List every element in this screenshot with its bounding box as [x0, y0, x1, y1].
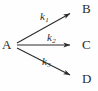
rate-constant-k1: k1 [40, 11, 49, 24]
rate-k3-subscript: 3 [47, 61, 51, 69]
node-label-a: A [2, 38, 11, 51]
node-label-c: C [82, 38, 91, 51]
rate-k1-subscript: 1 [45, 16, 49, 24]
rate-constant-k2: k2 [47, 32, 56, 45]
rate-constant-k3: k3 [42, 56, 51, 69]
node-label-d: D [82, 72, 91, 85]
reaction-scheme-diagram: A B C D k1 k2 k3 [0, 0, 98, 91]
node-label-b: B [82, 2, 91, 15]
rate-k2-subscript: 2 [52, 37, 56, 45]
